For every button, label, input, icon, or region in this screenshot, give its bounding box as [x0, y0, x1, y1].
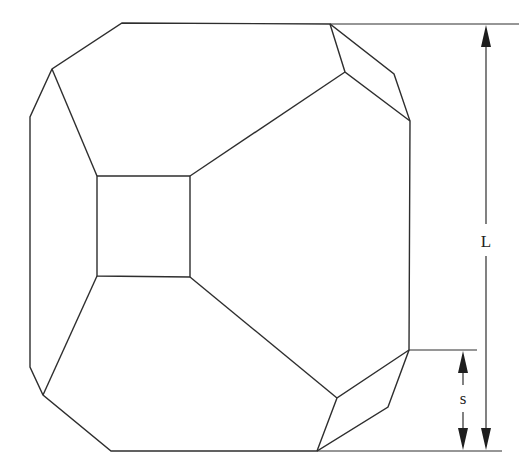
rhombus-bottom-facet [317, 350, 409, 451]
label-s: s [460, 389, 467, 408]
edge-square-bl [43, 276, 97, 395]
arrow-down-icon [481, 428, 491, 450]
arrow-down-icon [458, 428, 468, 450]
edge-square-br [190, 277, 337, 398]
edge-square-tr [190, 72, 345, 176]
edge-square-tl [52, 69, 97, 176]
crystal-diagram: L s [0, 0, 529, 472]
label-L: L [481, 232, 491, 251]
square-face [97, 176, 190, 277]
dimension-L: L [481, 25, 491, 450]
arrow-up-icon [481, 25, 491, 47]
rhombus-top-facet [330, 24, 410, 121]
arrow-up-icon [458, 351, 468, 373]
dimension-s: s [458, 351, 468, 450]
